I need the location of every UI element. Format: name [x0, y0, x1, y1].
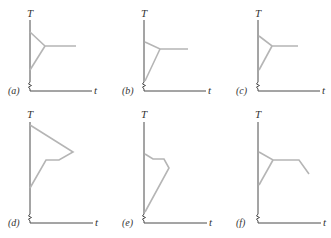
panel-label: (f) — [236, 217, 246, 229]
y-axis-label: T — [255, 108, 262, 120]
temperature-curve — [145, 49, 160, 81]
y-axis — [143, 122, 208, 223]
y-axis-label: T — [141, 108, 148, 120]
y-axis-label: T — [27, 7, 34, 19]
panel-label: (a) — [8, 85, 20, 97]
x-axis-label: t — [322, 84, 326, 96]
panel-d: Tt(d) — [8, 108, 99, 229]
y-axis-label: T — [141, 7, 148, 19]
y-axis-label: T — [255, 7, 262, 19]
temperature-curve — [259, 36, 298, 46]
temperature-curve — [30, 46, 45, 70]
x-axis-label: t — [95, 216, 99, 228]
panel-label: (d) — [8, 217, 20, 229]
temperature-curve — [259, 46, 272, 70]
panel-f: Tt(f) — [236, 108, 327, 229]
x-axis-label: t — [94, 84, 98, 96]
panel-e: Tt(e) — [122, 108, 213, 229]
panel-label: (e) — [122, 217, 134, 229]
temperature-curve — [30, 125, 73, 188]
panel-b: Tt(b) — [122, 7, 212, 97]
temperature-curve — [145, 154, 169, 212]
temperature-curve — [259, 160, 273, 185]
x-axis-label: t — [208, 84, 212, 96]
panel-c: Tt(c) — [236, 7, 326, 97]
temperature-curve — [30, 32, 76, 46]
temperature-curve — [145, 42, 188, 49]
panel-label: (b) — [122, 85, 134, 97]
y-axis — [143, 20, 207, 91]
x-axis-label: t — [323, 216, 327, 228]
x-axis-label: t — [209, 216, 213, 228]
panel-label: (c) — [236, 85, 248, 97]
temperature-time-figure: Tt(a)Tt(b)Tt(c)Tt(d)Tt(e)Tt(f) — [0, 0, 331, 238]
y-axis — [29, 20, 93, 91]
y-axis-label: T — [27, 108, 34, 120]
panel-a: Tt(a) — [8, 7, 98, 97]
